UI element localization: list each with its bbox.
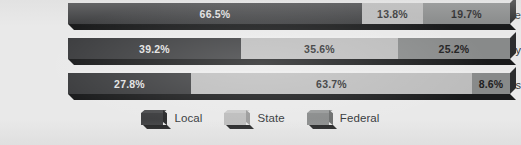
segment-value-label: 13.8% bbox=[377, 8, 408, 20]
segment-police-state[interactable]: 13.8% bbox=[362, 3, 423, 24]
segment-value-label: 66.5% bbox=[200, 8, 231, 20]
swatch-side bbox=[329, 110, 333, 125]
segment-corrections-state[interactable]: 63.7% bbox=[191, 73, 472, 94]
swatch-shadow bbox=[226, 125, 254, 129]
bar-face: 66.5% 13.8% 19.7% bbox=[68, 3, 510, 24]
segment-value-label: 63.7% bbox=[316, 78, 347, 90]
legend-item-federal[interactable]: Federal bbox=[307, 110, 380, 125]
segment-corrections-local[interactable]: 27.8% bbox=[68, 73, 191, 94]
chart-legend: Local State Federal bbox=[0, 110, 521, 125]
bar-face: 27.8% 63.7% 8.6% bbox=[68, 73, 510, 94]
swatch-face bbox=[141, 113, 163, 125]
segment-value-label: 25.2% bbox=[439, 43, 470, 55]
legend-label-local: Local bbox=[174, 112, 202, 124]
segment-value-label: 8.6% bbox=[479, 78, 504, 90]
bar-shadow bbox=[68, 59, 516, 65]
swatch-side bbox=[246, 110, 250, 125]
segment-judiciary-local[interactable]: 39.2% bbox=[68, 38, 241, 59]
legend-swatch-state-icon bbox=[224, 110, 250, 125]
segment-police-federal[interactable]: 19.7% bbox=[423, 3, 510, 24]
legend-label-federal: Federal bbox=[340, 112, 380, 124]
stacked-bar-chart: Police 66.5% 13.8% 19.7% Judiciary 39.2% bbox=[0, 0, 521, 145]
bar-face: 39.2% 35.6% 25.2% bbox=[68, 38, 510, 59]
legend-swatch-federal-icon bbox=[307, 110, 333, 125]
legend-swatch-local-icon bbox=[141, 110, 167, 125]
segment-value-label: 35.6% bbox=[304, 43, 335, 55]
bar-shadow bbox=[68, 94, 516, 100]
swatch-shadow bbox=[143, 125, 171, 129]
segment-value-label: 19.7% bbox=[451, 8, 482, 20]
legend-item-local[interactable]: Local bbox=[141, 110, 202, 125]
segment-corrections-federal[interactable]: 8.6% bbox=[472, 73, 510, 94]
bar-shadow bbox=[68, 24, 516, 30]
segment-value-label: 39.2% bbox=[139, 43, 170, 55]
swatch-face bbox=[224, 113, 246, 125]
swatch-face bbox=[307, 113, 329, 125]
segment-judiciary-state[interactable]: 35.6% bbox=[241, 38, 398, 59]
legend-label-state: State bbox=[257, 112, 284, 124]
swatch-side bbox=[163, 110, 167, 125]
segment-value-label: 27.8% bbox=[114, 78, 145, 90]
legend-item-state[interactable]: State bbox=[224, 110, 284, 125]
segment-police-local[interactable]: 66.5% bbox=[68, 3, 362, 24]
segment-judiciary-federal[interactable]: 25.2% bbox=[398, 38, 510, 59]
